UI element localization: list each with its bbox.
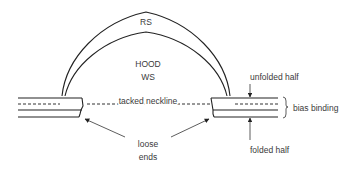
loose-label: loose bbox=[138, 139, 159, 149]
loose-ends-arrow-left bbox=[85, 119, 125, 137]
unfolded-half-label: unfolded half bbox=[250, 72, 299, 82]
left-binding-strip bbox=[18, 98, 83, 117]
hood-binding-diagram: RS HOOD WS tacked neckline unfolded half… bbox=[0, 0, 364, 175]
ws-label: WS bbox=[141, 72, 155, 82]
loose-ends-arrow-right bbox=[171, 119, 209, 137]
right-binding-strip bbox=[211, 98, 278, 117]
ends-label: ends bbox=[139, 152, 157, 162]
tacked-neckline-label: tacked neckline bbox=[119, 96, 178, 106]
bias-binding-brace bbox=[283, 97, 288, 118]
rs-label: RS bbox=[140, 17, 152, 27]
bias-binding-label: bias binding bbox=[293, 103, 339, 113]
folded-half-label: folded half bbox=[250, 145, 290, 155]
hood-label: HOOD bbox=[135, 59, 161, 69]
